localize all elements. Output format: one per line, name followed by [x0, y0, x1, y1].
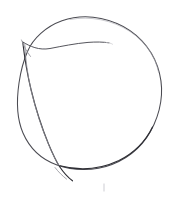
- secondary-arc-stroke: [23, 42, 110, 49]
- main-circle-upper-right-overlay: [70, 18, 159, 72]
- main-circle-stroke: [17, 17, 161, 170]
- secondary-arc-fade-tip: [106, 43, 113, 45]
- pencil-sketch-drawing: [0, 0, 175, 206]
- sketch-canvas: Hand-drawn circle sketch pencil sketch: [0, 0, 175, 206]
- left-chord-ghost-pass: [25, 44, 59, 166]
- left-chord-stroke: [23, 43, 73, 181]
